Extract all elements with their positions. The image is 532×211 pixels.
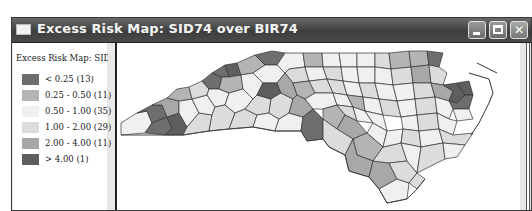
legend-label: 0.50 - 1.00 (35) — [45, 106, 111, 116]
map-canvas[interactable] — [115, 43, 520, 210]
title-bar[interactable]: Excess Risk Map: SID74 over BIR74 ✕ — [12, 18, 531, 43]
legend-item[interactable]: > 4.00 (1) — [22, 153, 89, 165]
nc-county-map[interactable] — [117, 43, 522, 210]
maximize-icon — [493, 25, 503, 34]
legend-item[interactable]: 1.00 - 2.00 (29) — [22, 121, 111, 133]
legend-label: 1.00 - 2.00 (29) — [45, 122, 111, 132]
close-icon: ✕ — [514, 23, 524, 37]
legend-item[interactable]: 0.50 - 1.00 (35) — [22, 105, 111, 117]
minimize-icon — [473, 32, 480, 35]
window-icon — [16, 24, 31, 35]
legend-item[interactable]: 0.25 - 0.50 (11) — [22, 89, 111, 101]
legend-swatch — [22, 154, 39, 165]
window-right-border — [526, 43, 530, 210]
legend-item[interactable]: < 0.25 (13) — [22, 73, 94, 85]
legend-label: > 4.00 (1) — [45, 154, 89, 164]
legend-panel: Excess Risk Map: SID74 o < 0.25 (13) 0.2… — [13, 43, 109, 210]
legend-label: < 0.25 (13) — [45, 74, 94, 84]
legend-swatch — [22, 138, 39, 149]
legend-swatch — [22, 74, 39, 85]
legend-swatch — [22, 90, 39, 101]
legend-label: 0.25 - 0.50 (11) — [45, 90, 111, 100]
maximize-button[interactable] — [489, 21, 507, 39]
close-button[interactable]: ✕ — [510, 21, 528, 39]
legend-swatch — [22, 122, 39, 133]
legend-swatch — [22, 106, 39, 117]
minimize-button[interactable] — [468, 21, 486, 39]
legend-item[interactable]: 2.00 - 4.00 (11) — [22, 137, 111, 149]
window-title: Excess Risk Map: SID74 over BIR74 — [37, 21, 298, 36]
app-window: Excess Risk Map: SID74 over BIR74 ✕ Exce… — [11, 17, 532, 211]
county-layer — [121, 51, 497, 203]
legend-label: 2.00 - 4.00 (11) — [45, 138, 111, 148]
legend-title: Excess Risk Map: SID74 o — [16, 53, 108, 63]
